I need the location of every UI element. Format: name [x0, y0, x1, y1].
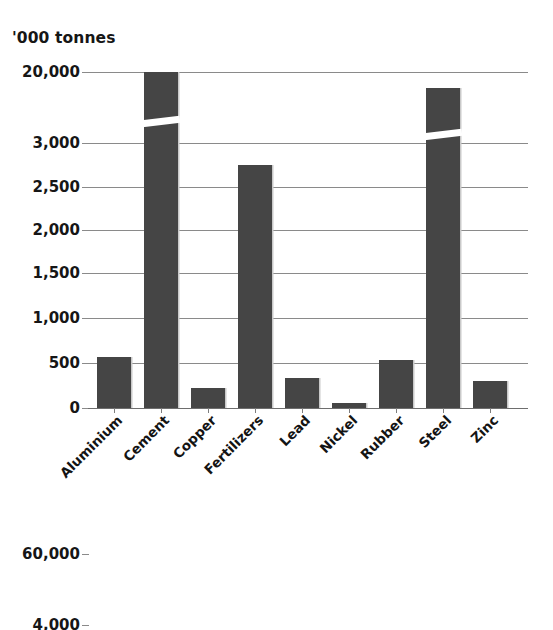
y-axis-tick-label: 20,000 [0, 63, 80, 81]
y-axis-tick-label: 0 [0, 399, 80, 417]
bar-lead [285, 378, 319, 408]
bar-steel [426, 88, 460, 408]
y-axis-tick-label: 2,500 [0, 178, 80, 196]
x-axis-label-steel: Steel [415, 412, 454, 451]
x-axis-label-zinc: Zinc [467, 412, 501, 446]
chart-panel-bottom: '000 tonnes 60,0004,000 [0, 500, 553, 630]
y-axis-tick-label: 60,000 [0, 545, 80, 563]
y-axis-tick-mark [82, 554, 89, 555]
bar-fertilizers [238, 165, 272, 408]
x-axis-label-nickel: Nickel [316, 412, 360, 456]
y-axis-tick-label: 3,000 [0, 134, 80, 152]
bar-aluminium [97, 357, 131, 408]
bar-copper [191, 388, 225, 408]
bar-zinc [473, 381, 507, 408]
y-axis-tick-mark [82, 625, 89, 626]
x-axis-label-lead: Lead [276, 412, 313, 449]
chart-figure: '000 tonnes 20,0003,0002,5002,0001,5001,… [0, 0, 553, 630]
axis-unit-title-top: '000 tonnes [12, 29, 115, 47]
y-axis-tick-label: 1,500 [0, 264, 80, 282]
x-axis-label-aluminium: Aluminium [57, 412, 126, 481]
y-axis-tick-label: 1,000 [0, 309, 80, 327]
y-axis-tick-label: 2,000 [0, 221, 80, 239]
y-axis-tick-label: 4,000 [0, 616, 80, 630]
bar-cement [144, 72, 178, 408]
axis-break-slash [142, 116, 181, 128]
y-axis-tick-label: 500 [0, 354, 80, 372]
chart-panel-top: '000 tonnes 20,0003,0002,5002,0001,5001,… [0, 0, 553, 500]
bar-rubber [379, 360, 413, 408]
x-axis-label-cement: Cement [120, 412, 173, 465]
x-axis-category-labels: AluminiumCementCopperFertilizersLeadNick… [88, 408, 548, 498]
plot-area-top [88, 72, 528, 408]
axis-break-slash [424, 129, 463, 141]
x-axis-label-rubber: Rubber [357, 412, 407, 462]
